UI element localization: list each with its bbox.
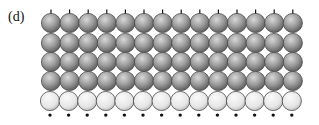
dark-atom: [246, 52, 265, 71]
dark-atom: [153, 13, 172, 32]
light-atom: [171, 91, 190, 110]
dark-atom: [116, 71, 135, 90]
dark-atom: [60, 13, 79, 32]
bottom-dot-marker: [253, 113, 256, 116]
bottom-dot-marker: [67, 113, 70, 116]
dark-atom: [153, 52, 172, 71]
dark-atom: [283, 71, 302, 90]
dark-atom: [172, 33, 191, 52]
dark-atom: [209, 33, 228, 52]
dark-atom: [97, 52, 116, 71]
dark-atom: [60, 71, 79, 90]
dark-atom: [227, 33, 246, 52]
bottom-dot-marker: [179, 113, 182, 116]
dark-atom: [153, 33, 172, 52]
dark-atom: [41, 71, 60, 90]
dark-atom: [97, 71, 116, 90]
dark-atom: [134, 13, 153, 32]
light-atom: [245, 91, 264, 110]
dark-atom: [190, 52, 209, 71]
dark-atom: [190, 33, 209, 52]
light-atom: [59, 91, 78, 110]
bottom-dot-marker: [160, 113, 163, 116]
dark-atom: [97, 13, 116, 32]
dark-atom: [60, 33, 79, 52]
dark-atom: [283, 52, 302, 71]
dark-atom: [172, 52, 191, 71]
dark-atom: [153, 71, 172, 90]
light-atom: [78, 91, 97, 110]
dark-atom: [246, 13, 265, 32]
bottom-dot-marker: [86, 113, 89, 116]
dark-atom: [227, 13, 246, 32]
light-atom: [226, 91, 245, 110]
bottom-dot-marker: [216, 113, 219, 116]
dark-atom: [283, 13, 302, 32]
light-atom: [96, 91, 115, 110]
light-atom: [40, 91, 59, 110]
dark-atom: [79, 52, 98, 71]
dark-atom: [227, 71, 246, 90]
dark-atom: [190, 71, 209, 90]
dark-atom: [265, 13, 284, 32]
dark-atom: [134, 71, 153, 90]
dark-atom: [116, 13, 135, 32]
dark-atom: [283, 33, 302, 52]
dark-atom: [134, 33, 153, 52]
dark-atom: [227, 52, 246, 71]
dark-atom: [172, 13, 191, 32]
light-atom: [115, 91, 134, 110]
dark-atom: [116, 33, 135, 52]
dark-atom: [79, 13, 98, 32]
bottom-dot-marker: [197, 113, 200, 116]
bottom-dot-marker: [141, 113, 144, 116]
bottom-dot-marker: [123, 113, 126, 116]
light-atom: [152, 91, 171, 110]
bottom-dot-marker: [104, 113, 107, 116]
atom-lattice-diagram: [0, 0, 319, 125]
bottom-dot-marker: [272, 113, 275, 116]
bottom-dot-marker: [234, 113, 237, 116]
light-atom: [208, 91, 227, 110]
dark-atom: [79, 33, 98, 52]
dark-atom: [209, 13, 228, 32]
dark-atom: [246, 71, 265, 90]
dark-atom: [79, 71, 98, 90]
dark-atom: [190, 13, 209, 32]
bottom-dot-marker: [48, 113, 51, 116]
dark-atom: [116, 52, 135, 71]
dark-atom: [41, 52, 60, 71]
dark-atom: [265, 52, 284, 71]
dark-atom: [172, 71, 191, 90]
bottom-dot-marker: [290, 113, 293, 116]
dark-atom: [134, 52, 153, 71]
light-atom: [189, 91, 208, 110]
dark-atom: [246, 33, 265, 52]
dark-atom: [60, 52, 79, 71]
dark-atom: [41, 13, 60, 32]
light-atom: [264, 91, 283, 110]
light-atom: [133, 91, 152, 110]
dark-atom: [265, 71, 284, 90]
dark-atom: [209, 71, 228, 90]
dark-atom: [97, 33, 116, 52]
dark-atom: [265, 33, 284, 52]
light-atom: [282, 91, 301, 110]
dark-atom: [41, 33, 60, 52]
dark-atom: [209, 52, 228, 71]
